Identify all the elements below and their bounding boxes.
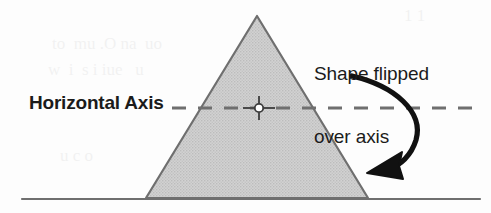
horizontal-axis-label: Horizontal Axis	[29, 92, 164, 113]
flip-callout-line-2: over axis	[314, 126, 429, 147]
geometry-figure: to mu .O na uo w i s i iue u u c o 1 1 H…	[0, 0, 491, 213]
flip-callout-label: Shape flipped over axis	[314, 20, 429, 190]
flip-callout-line-1: Shape flipped	[314, 63, 429, 84]
